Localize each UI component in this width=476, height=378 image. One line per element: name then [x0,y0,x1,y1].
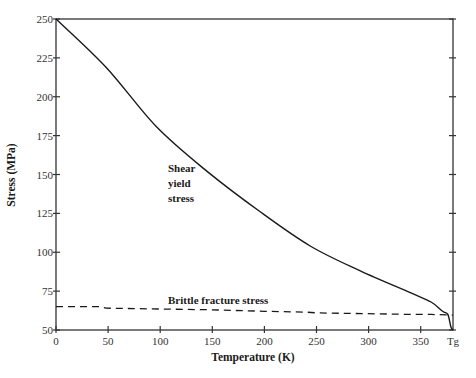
y-tick-label: 50 [42,324,54,336]
y-tick-label: 225 [37,52,54,64]
shear-yield-stress-line [56,19,453,330]
y-tick-label: 100 [37,246,54,258]
plot-axes [56,19,453,330]
brittle-annotation: Brittle fracture stress [168,294,269,306]
shear-annotation-line2: yield [168,177,191,189]
y-axis-title: Stress (MPa) [5,143,18,207]
brittle-fracture-stress-line [56,307,453,316]
x-tick-label: 100 [152,335,169,347]
y-tick-label: 75 [42,285,54,297]
shear-annotation-line1: Shear [168,162,196,174]
x-axis-title: Temperature (K) [211,351,295,364]
y-axis-ticks: 5075100125150175200225250 [37,13,457,336]
shear-annotation-line3: stress [168,192,195,204]
x-tick-label: 200 [256,335,273,347]
x-tick-label: 300 [360,335,377,347]
x-tick-label: 50 [103,335,115,347]
x-tick-label: 350 [412,335,429,347]
y-tick-label: 125 [37,207,54,219]
tg-label: Tg [447,335,460,347]
y-tick-label: 150 [37,169,54,181]
x-tick-label: 0 [53,335,59,347]
plot-frame [56,19,453,330]
y-tick-label: 250 [37,13,54,25]
x-tick-label: 150 [204,335,221,347]
y-tick-label: 200 [37,91,54,103]
x-tick-label: 250 [308,335,325,347]
chart: 5075100125150175200225250 05010015020025… [0,0,476,378]
x-axis-ticks: 050100150200250300350 [53,326,429,347]
y-tick-label: 175 [37,130,54,142]
